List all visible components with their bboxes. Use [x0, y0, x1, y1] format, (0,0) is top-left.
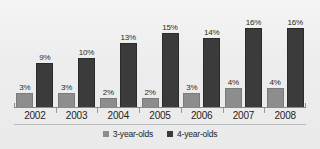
bar-chart: 3%9%3%10%2%13%2%15%3%14%4%16%4%16% 20022…: [0, 0, 320, 149]
bar-value-label: 16%: [246, 18, 261, 27]
bar-column: 3%: [16, 18, 33, 108]
bar-group: 3%9%: [14, 18, 56, 108]
bar-group: 3%10%: [56, 18, 98, 108]
plot-area: 3%9%3%10%2%13%2%15%3%14%4%16%4%16%: [14, 18, 306, 108]
category-label-2002: 2002: [14, 110, 56, 121]
bar-group: 2%13%: [97, 18, 139, 108]
bar-column: 16%: [245, 18, 262, 108]
category-label-2008: 2008: [264, 110, 306, 121]
bar-column: 2%: [142, 18, 159, 108]
bar-column: 3%: [58, 18, 75, 108]
bar-value-label: 3%: [186, 83, 197, 92]
bar-value-label: 13%: [121, 33, 136, 42]
bar-value-label: 3%: [19, 83, 30, 92]
bar-column: 14%: [203, 18, 220, 108]
bar[interactable]: [245, 28, 262, 108]
bar-column: 4%: [225, 18, 242, 108]
legend-label: 3-year-olds: [113, 129, 153, 139]
bar-column: 15%: [162, 18, 179, 108]
bar-column: 9%: [36, 18, 53, 108]
legend-item[interactable]: 4-year-olds: [167, 129, 217, 139]
legend-label: 4-year-olds: [177, 129, 217, 139]
bar-value-label: 10%: [79, 48, 94, 57]
bar[interactable]: [287, 28, 304, 108]
bar-value-label: 2%: [144, 88, 155, 97]
legend-swatch-icon: [103, 131, 109, 137]
bar-value-label: 14%: [204, 28, 219, 37]
bar-column: 13%: [120, 18, 137, 108]
bar-value-label: 3%: [61, 83, 72, 92]
bar-column: 16%: [287, 18, 304, 108]
bar-group: 4%16%: [264, 18, 306, 108]
bar-value-label: 2%: [103, 88, 114, 97]
bar-column: 3%: [183, 18, 200, 108]
bar-value-label: 9%: [39, 53, 50, 62]
bar[interactable]: [58, 93, 75, 108]
bar[interactable]: [78, 58, 95, 108]
category-label-2006: 2006: [181, 110, 223, 121]
bar[interactable]: [120, 43, 137, 108]
bar[interactable]: [267, 88, 284, 108]
x-axis-category-labels: 2002200320042005200620072008: [14, 110, 306, 121]
bar-value-label: 4%: [270, 78, 281, 87]
bar-group: 4%16%: [223, 18, 265, 108]
bar[interactable]: [36, 63, 53, 108]
category-label-2004: 2004: [97, 110, 139, 121]
bar[interactable]: [162, 33, 179, 108]
bar[interactable]: [16, 93, 33, 108]
category-baseline-rule: [14, 124, 306, 125]
bar-column: 2%: [100, 18, 117, 108]
bar-value-label: 16%: [287, 18, 302, 27]
bar-column: 4%: [267, 18, 284, 108]
bar-groups: 3%9%3%10%2%13%2%15%3%14%4%16%4%16%: [14, 18, 306, 108]
bar-column: 10%: [78, 18, 95, 108]
bar[interactable]: [183, 93, 200, 108]
legend-item[interactable]: 3-year-olds: [103, 129, 153, 139]
chart-legend: 3-year-olds4-year-olds: [0, 129, 320, 139]
category-label-2005: 2005: [139, 110, 181, 121]
bar[interactable]: [225, 88, 242, 108]
category-label-2003: 2003: [56, 110, 98, 121]
legend-swatch-icon: [167, 131, 173, 137]
category-label-2007: 2007: [223, 110, 265, 121]
bar-value-label: 15%: [162, 23, 177, 32]
bar-value-label: 4%: [228, 78, 239, 87]
bar-group: 2%15%: [139, 18, 181, 108]
bar[interactable]: [203, 38, 220, 108]
bar-group: 3%14%: [181, 18, 223, 108]
